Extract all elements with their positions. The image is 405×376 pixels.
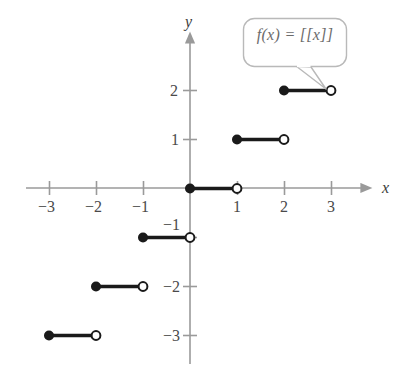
closed-dot-0-0: [185, 184, 195, 194]
step-function-figure: f(x) = [[x]] x y −3 −2 −1 1 2 3 2 1 −1 −…: [0, 0, 405, 376]
x-tick-label--2: −2: [85, 199, 102, 215]
x-axis-label: x: [382, 180, 389, 196]
open-dot-0--1: [186, 233, 195, 242]
plot-canvas: [0, 0, 405, 376]
closed-dot-2-2: [279, 86, 289, 96]
open-dot--1--2: [139, 282, 148, 291]
closed-dot--2--2: [91, 282, 101, 292]
callout-tail: [296, 66, 326, 89]
x-tick-label--3: −3: [38, 199, 55, 215]
open-dot-1-0: [233, 184, 242, 193]
open-dot-2-1: [280, 135, 289, 144]
callout-formula-label: f(x) = [[x]]: [248, 26, 342, 44]
closed-dot--3--3: [44, 331, 54, 341]
closed-dot-1-1: [232, 135, 242, 145]
y-axis-label: y: [185, 14, 192, 30]
closed-endpoints: [44, 86, 289, 341]
x-tick-label-3: 3: [327, 199, 335, 215]
x-tick-label-2: 2: [280, 199, 288, 215]
open-dot--2--3: [92, 331, 101, 340]
open-dot-3-2: [327, 86, 336, 95]
open-endpoints: [92, 86, 336, 340]
y-tick-label-1: 1: [171, 132, 179, 148]
x-tick-label--1: −1: [132, 199, 149, 215]
y-tick-label--2: −2: [163, 279, 180, 295]
closed-dot--1--1: [138, 233, 148, 243]
y-tick-label-2: 2: [170, 83, 178, 99]
y-tick-label--3: −3: [163, 328, 180, 344]
y-tick-label--1: −1: [163, 217, 180, 233]
x-tick-label-1: 1: [233, 199, 241, 215]
